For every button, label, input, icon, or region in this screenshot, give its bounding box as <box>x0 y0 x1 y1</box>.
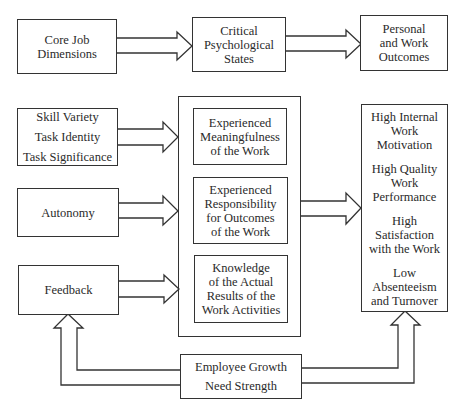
autonomy-box: Autonomy <box>17 188 119 237</box>
label-line: High <box>369 214 440 228</box>
label-line: Work Activities <box>202 303 281 317</box>
label-line: Experienced <box>209 116 271 130</box>
label-line: States <box>224 52 254 66</box>
arrow-moderator-to-outcomes <box>302 311 420 383</box>
label-line: Satisfaction <box>369 228 440 242</box>
arrow-skill-to-states <box>117 122 178 152</box>
outcome-motivation: High Internal Work Motivation <box>371 110 438 152</box>
outcome-performance: High Quality Work Performance <box>372 162 438 204</box>
label-line: Work <box>372 176 438 190</box>
label-line: of the Work <box>211 225 270 239</box>
label-line: with the Work <box>369 242 440 256</box>
label-line: Motivation <box>371 138 438 152</box>
outcome-absenteeism: Low Absenteeism and Turnover <box>371 266 438 308</box>
knowledge-box: Knowledge of the Actual Results of the W… <box>194 255 288 323</box>
label-line: Need Strength <box>205 379 277 393</box>
label-line: of the Actual <box>209 275 274 289</box>
label-line: High Quality <box>372 162 438 176</box>
label-line: Meaningfulness <box>200 130 280 144</box>
arrow-states-to-outcomes <box>300 193 361 224</box>
label-line: Knowledge <box>212 261 270 275</box>
label-line: Psychological <box>204 38 274 52</box>
critical-psychological-states-box: Critical Psychological States <box>192 17 286 72</box>
core-job-dimensions-box: Core Job Dimensions <box>17 19 117 74</box>
label-line: Results of the <box>207 289 276 303</box>
arrow-autonomy-to-states <box>118 196 178 225</box>
label-line: Low <box>371 266 438 280</box>
label-line: Core Job <box>45 33 90 47</box>
responsibility-box: Experienced Responsibility for Outcomes … <box>193 177 288 244</box>
autonomy-label: Autonomy <box>41 206 94 220</box>
task-identity-label: Task Identity <box>35 130 100 144</box>
outcomes-box: High Internal Work Motivation High Quali… <box>361 104 448 312</box>
meaningfulness-box: Experienced Meaningfulness of the Work <box>193 108 287 165</box>
label-line: Outcomes <box>379 50 430 64</box>
label-line: Dimensions <box>37 47 97 61</box>
outcome-satisfaction: High Satisfaction with the Work <box>369 214 440 256</box>
arrow-critical-to-outcomes <box>285 30 361 58</box>
arrow-core-to-critical <box>116 32 192 60</box>
label-line: Absenteeism <box>371 280 438 294</box>
label-line: Experienced <box>209 183 271 197</box>
arrow-feedback-to-states <box>118 275 179 303</box>
label-line: Work <box>371 124 438 138</box>
label-line: Performance <box>372 190 438 204</box>
skill-variety-label: Skill Variety <box>36 110 99 124</box>
arrow-moderator-to-feedback <box>54 314 180 385</box>
skill-identity-significance-box: Skill Variety Task Identity Task Signifi… <box>17 108 118 166</box>
label-line: and Work <box>380 36 428 50</box>
feedback-box: Feedback <box>18 265 119 315</box>
label-line: Critical <box>220 24 258 38</box>
label-line: High Internal <box>371 110 438 124</box>
label-line: for Outcomes <box>206 211 274 225</box>
label-line: Personal <box>382 22 425 36</box>
feedback-label: Feedback <box>45 283 93 297</box>
label-line: Responsibility <box>204 197 276 211</box>
label-line: Employee Growth <box>195 360 287 374</box>
task-significance-label: Task Significance <box>23 150 112 164</box>
personal-work-outcomes-box: Personal and Work Outcomes <box>360 15 448 71</box>
label-line: and Turnover <box>371 294 438 308</box>
label-line: of the Work <box>210 144 269 158</box>
growth-need-strength-box: Employee Growth Need Strength <box>180 354 302 399</box>
